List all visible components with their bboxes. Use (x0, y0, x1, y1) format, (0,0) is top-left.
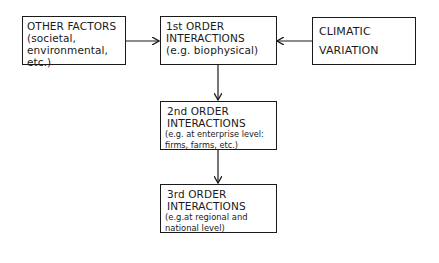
other-factors-box: OTHER FACTORS (societal, environmental, … (22, 16, 126, 65)
second-order-example-1: (e.g. at enterprise level: (165, 129, 272, 140)
third-order-subtitle: INTERACTIONS (165, 200, 272, 212)
first-order-subtitle: INTERACTIONS (166, 32, 271, 44)
first-order-box: 1st ORDER INTERACTIONS (e.g. biophysical… (160, 16, 277, 65)
variation-title: VARIATION (319, 41, 409, 60)
climatic-variation-box: CLIMATIC VARIATION (312, 17, 416, 65)
second-order-example-2: firms, farms, etc.) (165, 140, 272, 151)
third-order-example-2: national level) (165, 223, 272, 234)
third-order-example-1: (e.g.at regional and (165, 212, 272, 223)
other-factors-title: OTHER FACTORS (27, 20, 121, 32)
second-order-subtitle: INTERACTIONS (165, 117, 272, 129)
first-order-example: (e.g. biophysical) (166, 44, 271, 56)
other-factors-detail-2: environmental, (27, 44, 121, 56)
other-factors-detail-1: (societal, (27, 32, 121, 44)
second-order-title: 2nd ORDER (165, 105, 272, 117)
third-order-title: 3rd ORDER (165, 188, 272, 200)
second-order-box: 2nd ORDER INTERACTIONS (e.g. at enterpri… (160, 101, 277, 150)
first-order-title: 1st ORDER (166, 20, 271, 32)
other-factors-detail-3: etc.) (27, 56, 121, 68)
climatic-title: CLIMATIC (319, 22, 409, 41)
third-order-box: 3rd ORDER INTERACTIONS (e.g.at regional … (160, 184, 277, 233)
